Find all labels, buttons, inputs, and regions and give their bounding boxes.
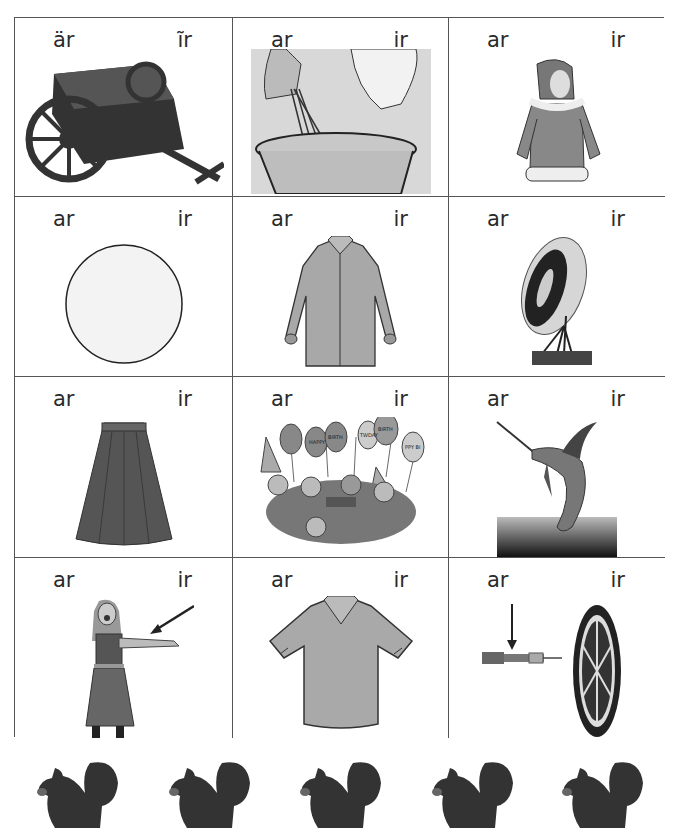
cell-skirt[interactable]: ar ir [15,377,233,558]
choice-ir[interactable]: ĩr [178,28,192,52]
cell-marlin[interactable]: ar ir [449,377,665,558]
target-icon [449,235,665,372]
skirt-icon [15,415,232,553]
choice-ir[interactable]: ir [394,387,408,411]
shirt-icon [233,596,448,732]
cell-stir[interactable]: ar ir [233,18,449,197]
cart-icon [15,56,232,192]
svg-text:BIRTH: BIRTH [378,426,393,432]
cell-shirt[interactable]: ar ir [233,558,449,738]
choice-ir[interactable]: ir [178,568,192,592]
choice-ir[interactable]: ir [394,207,408,231]
choice-ir[interactable]: ir [611,387,625,411]
cell-dart[interactable]: ar ir [449,558,665,738]
choice-ir[interactable]: ir [611,568,625,592]
choice-ar[interactable]: ar [487,568,509,592]
choice-ar[interactable]: ar [487,207,509,231]
cell-cart[interactable]: är ĩr [15,18,233,197]
choice-ar[interactable]: ar [271,568,293,592]
choice-ir[interactable]: ir [178,207,192,231]
dart-icon [449,596,665,738]
squirrel-icon [162,758,252,830]
squirrel-icon [425,758,515,830]
worksheet-grid: är ĩr ar ir [14,17,664,737]
choice-ar[interactable]: ar [487,28,509,52]
choice-ir[interactable]: ir [394,568,408,592]
long-shirt-icon [233,235,448,372]
squirrel-icon [30,758,120,830]
choice-ar[interactable]: ar [53,568,75,592]
svg-text:TWDAY: TWDAY [359,432,379,438]
cell-arm[interactable]: ar ir [15,558,233,738]
choice-ir[interactable]: ir [611,28,625,52]
choice-ar[interactable]: ar [271,387,293,411]
choice-ar[interactable]: ar [53,387,75,411]
cell-parka[interactable]: ar ir [449,18,665,197]
cell-long-shirt[interactable]: ar ir [233,197,449,377]
parka-icon [449,56,665,192]
choice-ir[interactable]: ir [611,207,625,231]
marlin-icon [449,415,665,557]
squirrel-icon [293,758,383,830]
girl-arm-icon [15,596,232,738]
circle-icon [15,235,232,372]
svg-text:BIRTH: BIRTH [328,434,343,440]
choice-ar[interactable]: ar [53,207,75,231]
stir-icon [233,50,448,192]
choice-ir[interactable]: ir [178,387,192,411]
choice-ar[interactable]: är [53,28,75,52]
squirrel-row [0,752,674,832]
squirrel-icon [555,758,645,830]
cell-circle[interactable]: ar ir [15,197,233,377]
cell-target[interactable]: ar ir [449,197,665,377]
cell-birthday-party[interactable]: ar ir HAPPY BIRTH TWDAY BIRTH PPY BI [233,377,449,558]
svg-text:HAPPY: HAPPY [309,439,326,445]
choice-ar[interactable]: ar [487,387,509,411]
choice-ar[interactable]: ar [271,207,293,231]
svg-text:PPY BI: PPY BI [405,444,420,450]
birthday-party-icon: HAPPY BIRTH TWDAY BIRTH PPY BI [233,415,448,553]
